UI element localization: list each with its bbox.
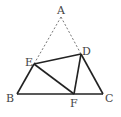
label-F: F bbox=[70, 97, 78, 110]
geometry-diagram: A D E B F C bbox=[0, 0, 121, 117]
label-A: A bbox=[56, 4, 66, 17]
dashed-segments bbox=[34, 17, 81, 64]
segment-AE bbox=[34, 17, 61, 64]
segment-ED bbox=[34, 54, 81, 64]
segment-DC bbox=[81, 54, 103, 94]
label-C: C bbox=[105, 92, 113, 105]
segment-AD bbox=[61, 17, 81, 54]
label-D: D bbox=[82, 45, 91, 58]
label-B: B bbox=[6, 92, 14, 105]
segment-DF bbox=[74, 54, 81, 94]
segment-EF bbox=[34, 64, 74, 94]
label-E: E bbox=[25, 56, 33, 69]
